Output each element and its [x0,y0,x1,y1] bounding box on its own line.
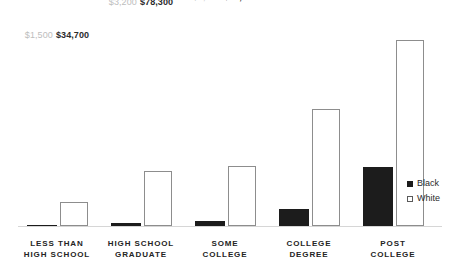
bar-white-2[interactable] [144,171,172,226]
bar-white-3[interactable] [228,166,256,226]
bar-group-college-degree: $23,400$180,500 [270,26,348,226]
filled-square-icon [407,181,413,187]
category-label-1-line-1: LESS THAN [18,238,96,249]
outlined-square-icon [407,196,413,202]
category-label-5-line-2: COLLEGE [354,249,432,260]
bar-group-less-than-high-school: $1,500$34,700 [18,26,96,226]
category-label-5-line-1: POST [354,238,432,249]
legend-label-black: Black [417,176,439,191]
value-label-black-2: $3,200 [109,0,137,7]
category-label-3-line-1: SOME [186,238,264,249]
category-label-4-line-2: DEGREE [270,249,348,260]
plot-area: $1,500$34,700 LESS THAN HIGH SCHOOL $3,2… [0,0,475,266]
bars-group-4 [270,26,348,226]
x-axis-baseline [18,226,442,227]
bar-group-high-school-graduate: $3,200$78,300 [102,26,180,226]
bars-group-2 [102,26,180,226]
category-label-1: LESS THAN HIGH SCHOOL [18,238,96,260]
bar-black-4[interactable] [279,209,309,226]
category-label-3-line-2: COLLEGE [186,249,264,260]
value-label-black-3: $7,100 [193,0,221,2]
bar-group-some-college: $7,100$86,200 [186,26,264,226]
category-label-4-line-1: COLLEGE [270,238,348,249]
category-label-3: SOME COLLEGE [186,238,264,260]
category-label-5: POST COLLEGE [354,238,432,260]
category-label-2: HIGH SCHOOL GRADUATE [102,238,180,260]
category-label-4: COLLEGE DEGREE [270,238,348,260]
category-label-2-line-1: HIGH SCHOOL [102,238,180,249]
bar-black-5[interactable] [363,167,393,226]
value-label-group-2: $3,200$78,300 [102,0,180,7]
value-label-group-3: $7,100$86,200 [186,0,264,2]
bar-white-1[interactable] [60,202,88,226]
bar-black-2[interactable] [111,223,141,226]
chart-legend: Black White [407,176,440,206]
legend-item-white[interactable]: White [407,191,440,206]
category-label-2-line-2: GRADUATE [102,249,180,260]
bar-white-4[interactable] [312,109,340,226]
legend-item-black[interactable]: Black [407,176,440,191]
bars-group-3 [186,26,264,226]
bar-black-3[interactable] [195,221,225,226]
value-label-white-3: $86,200 [224,0,257,2]
bar-black-1[interactable] [27,225,57,226]
category-label-1-line-2: HIGH SCHOOL [18,249,96,260]
bars-group-1 [18,26,96,226]
grouped-bar-chart: $1,500$34,700 LESS THAN HIGH SCHOOL $3,2… [0,0,475,266]
legend-label-white: White [417,191,440,206]
value-label-white-2: $78,300 [140,0,173,7]
